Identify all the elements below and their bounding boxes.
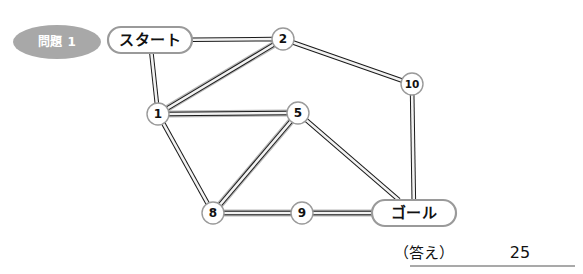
graph-node-n8[interactable]: 8 (202, 202, 224, 224)
problem-badge-group: 問題 1 (13, 25, 101, 59)
problem-badge-label: 問題 1 (38, 35, 77, 49)
graph-node-label-n1: 1 (154, 107, 162, 121)
graph-node-n2[interactable]: 2 (272, 28, 294, 50)
puzzle-page: スタート2101589ゴール 問題 1 （答え）25 (0, 0, 583, 274)
edge-n1-n2 (167, 44, 275, 109)
edge-n1-n5 (168, 113, 288, 114)
edge-n5-goal (306, 120, 399, 200)
graph-node-label-n10: 10 (405, 78, 420, 90)
edge-start-n2 (192, 39, 273, 40)
graph-node-n10[interactable]: 10 (401, 73, 423, 95)
graph-node-label-n5: 5 (294, 106, 302, 120)
graph-node-start[interactable]: スタート (108, 27, 192, 53)
edges-layer (151, 39, 413, 213)
edge-n1-n8 (163, 123, 208, 205)
edge-start-n1 (151, 53, 157, 104)
graph-node-n1[interactable]: 1 (147, 103, 169, 125)
edge-n2-n10 (292, 42, 402, 80)
edge-n10-goal (412, 94, 414, 200)
graph-node-goal[interactable]: ゴール (372, 200, 456, 226)
graph-node-label-goal: ゴール (391, 204, 438, 222)
answer-label: （答え） (394, 244, 454, 262)
graph-node-n5[interactable]: 5 (287, 102, 309, 124)
answer-value[interactable]: 25 (510, 243, 530, 262)
edge-n5-n8 (219, 121, 291, 206)
answer-group: （答え）25 (394, 243, 575, 266)
graph-node-label-n8: 8 (209, 206, 217, 220)
graph-canvas: スタート2101589ゴール 問題 1 （答え）25 (0, 0, 583, 274)
graph-node-label-n9: 9 (298, 206, 306, 220)
graph-node-label-n2: 2 (279, 32, 287, 46)
graph-node-label-start: スタート (119, 31, 181, 49)
graph-node-n9[interactable]: 9 (291, 202, 313, 224)
